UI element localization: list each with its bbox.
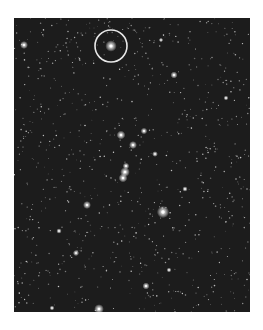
star-field-photo: Black and white photograph of a dense st…	[14, 18, 250, 312]
star-field	[14, 18, 250, 312]
star	[224, 311, 229, 312]
